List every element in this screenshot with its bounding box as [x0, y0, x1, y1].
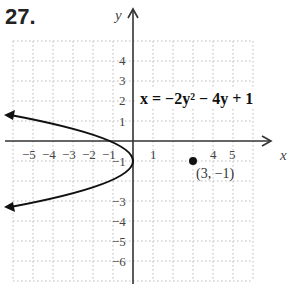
svg-text:−4: −4: [42, 147, 56, 162]
vertex-label: (3, −1): [196, 166, 235, 182]
svg-text:−5: −5: [22, 147, 36, 162]
y-axis-label: y: [113, 7, 122, 23]
svg-text:4: 4: [119, 53, 126, 68]
svg-text:4: 4: [210, 147, 217, 162]
svg-text:5: 5: [229, 147, 236, 162]
svg-text:−4: −4: [112, 214, 126, 229]
svg-text:−3: −3: [62, 147, 76, 162]
y-tick-labels: 4 3 2 1 −1 −3 −4 −5 −6: [112, 53, 126, 269]
svg-text:−1: −1: [112, 154, 126, 169]
left-arrow-lower-icon: [4, 202, 15, 212]
svg-text:−2: −2: [82, 147, 96, 162]
svg-text:1: 1: [150, 147, 157, 162]
svg-text:−3: −3: [112, 194, 126, 209]
x-axis-label: x: [279, 147, 287, 163]
svg-text:−5: −5: [112, 234, 126, 249]
svg-text:2: 2: [119, 93, 126, 108]
svg-text:−6: −6: [112, 254, 126, 269]
svg-text:1: 1: [119, 114, 126, 129]
parabola-graph: x y −5 −4 −3 −2 −1 1 4 5 4 3 2 1 −1 −3 −…: [0, 0, 294, 294]
x-tick-labels: −5 −4 −3 −2 −1 1 4 5: [22, 147, 236, 162]
vertex-dot: [189, 157, 197, 165]
svg-text:3: 3: [119, 73, 126, 88]
equation-label: x = −2y² − 4y + 1: [140, 90, 253, 108]
